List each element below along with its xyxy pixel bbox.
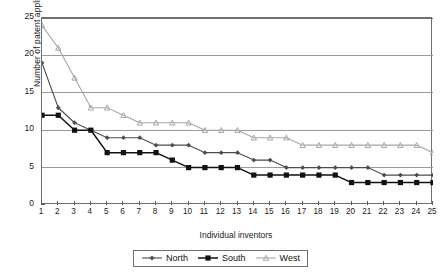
- x-axis-tick-mark: [57, 201, 58, 205]
- x-axis-tick-label: 13: [229, 207, 245, 216]
- x-axis-tick-mark: [90, 201, 91, 205]
- x-axis-tick-label: 24: [408, 207, 424, 216]
- x-axis-tick-label: 21: [359, 207, 375, 216]
- x-axis-tick-label: 23: [391, 207, 407, 216]
- x-axis-tick-label: 25: [424, 207, 440, 216]
- y-axis-tick-label: 0: [4, 198, 34, 208]
- x-axis-tick-mark: [155, 201, 156, 205]
- x-axis-tick-label: 20: [343, 207, 359, 216]
- legend-item-west[interactable]: West: [255, 253, 300, 263]
- x-axis-tick-mark: [41, 201, 42, 205]
- x-axis-title: Individual inventors: [40, 230, 432, 240]
- x-axis-tick-label: 16: [277, 207, 293, 216]
- x-axis-tick-mark: [399, 201, 400, 205]
- x-axis-tick-labels: 1234567891011121314151617181920212223242…: [41, 205, 432, 221]
- legend-label: South: [222, 253, 246, 263]
- triangle-marker-icon: [255, 253, 277, 263]
- y-axis-tick-label: 15: [4, 86, 34, 96]
- x-axis-tick-label: 10: [180, 207, 196, 216]
- x-axis-tick-mark: [74, 201, 75, 205]
- x-axis-tick-mark: [351, 201, 352, 205]
- diamond-marker-icon: [141, 253, 163, 263]
- x-axis-tick-label: 8: [147, 207, 163, 216]
- chart-legend: NorthSouthWest: [133, 250, 308, 267]
- x-axis-tick-mark: [334, 201, 335, 205]
- x-axis-tick-mark: [220, 201, 221, 205]
- y-axis-tick-label: 5: [4, 161, 34, 171]
- x-axis-tick-label: 7: [131, 207, 147, 216]
- y-axis-tick-labels: 0510152025: [4, 0, 37, 204]
- legend-item-north[interactable]: North: [141, 253, 188, 263]
- x-axis-tick-label: 19: [326, 207, 342, 216]
- x-axis-tick-mark: [416, 201, 417, 205]
- x-axis-tick-mark: [285, 201, 286, 205]
- x-axis-tick-label: 9: [163, 207, 179, 216]
- plot-area: [41, 17, 432, 204]
- legend-item-south[interactable]: South: [197, 253, 246, 263]
- x-axis-tick-mark: [139, 201, 140, 205]
- x-axis-tick-label: 6: [114, 207, 130, 216]
- x-axis-tick-mark: [106, 201, 107, 205]
- x-axis-tick-mark: [237, 201, 238, 205]
- x-axis-tick-mark: [253, 201, 254, 205]
- data-series-layer: [42, 18, 433, 205]
- x-axis-tick-label: 12: [212, 207, 228, 216]
- x-axis-tick-label: 5: [98, 207, 114, 216]
- legend-label: West: [280, 253, 300, 263]
- x-axis-tick-label: 11: [196, 207, 212, 216]
- x-axis-tick-label: 4: [82, 207, 98, 216]
- x-axis-tick-label: 17: [294, 207, 310, 216]
- x-axis-tick-mark: [383, 201, 384, 205]
- y-axis-tick-label: 25: [4, 11, 34, 21]
- x-axis-tick-mark: [204, 201, 205, 205]
- x-axis-tick-mark: [188, 201, 189, 205]
- x-axis-tick-label: 14: [245, 207, 261, 216]
- x-axis-tick-mark: [318, 201, 319, 205]
- x-axis-tick-label: 2: [49, 207, 65, 216]
- x-axis-tick-mark: [302, 201, 303, 205]
- y-axis-tick-label: 10: [4, 123, 34, 133]
- x-axis-tick-mark: [269, 201, 270, 205]
- x-axis-tick-mark: [367, 201, 368, 205]
- x-axis-tick-label: 3: [66, 207, 82, 216]
- square-marker-icon: [197, 253, 219, 263]
- legend-label: North: [166, 253, 188, 263]
- x-axis-tick-label: 22: [375, 207, 391, 216]
- x-axis-tick-mark: [122, 201, 123, 205]
- x-axis-tick-label: 18: [310, 207, 326, 216]
- x-axis-tick-mark: [171, 201, 172, 205]
- y-axis-tick-label: 20: [4, 48, 34, 58]
- x-axis-tick-mark: [432, 201, 433, 205]
- x-axis-tick-label: 15: [261, 207, 277, 216]
- x-axis-tick-label: 1: [33, 207, 49, 216]
